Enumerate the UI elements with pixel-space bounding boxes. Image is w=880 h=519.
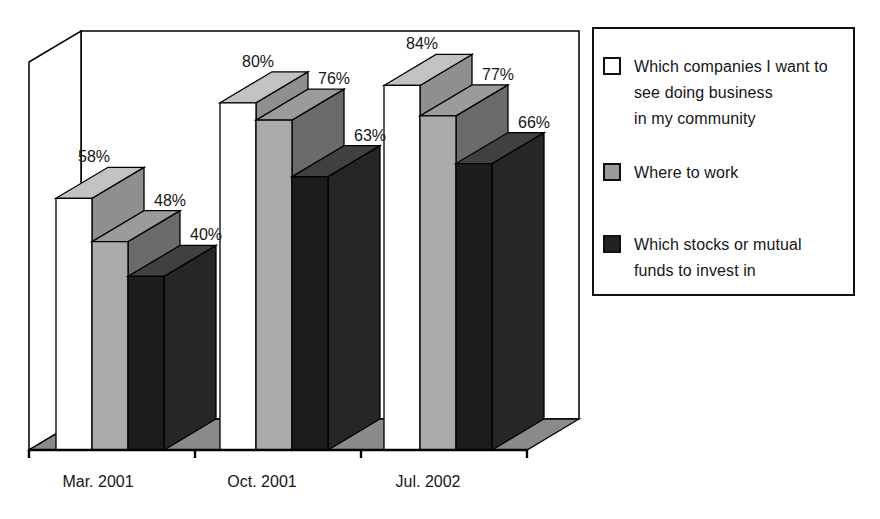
value-label: 48% — [154, 192, 186, 209]
bar-mar-2001-series-2-side — [164, 245, 216, 450]
legend-entry-stocks: Which stocks or mutual funds to invest i… — [594, 232, 849, 284]
value-label: 58% — [78, 148, 110, 165]
legend-entry-companies: Which companies I want to see doing busi… — [594, 54, 849, 132]
legend-entry-work: Where to work — [594, 160, 849, 186]
category-label: Jul. 2002 — [396, 473, 461, 490]
figure-canvas: 58%48%40%80%76%63%84%77%66%Mar. 2001Oct.… — [0, 0, 880, 519]
value-label: 76% — [318, 70, 350, 87]
value-label: 66% — [518, 114, 550, 131]
bar-oct-2001-series-2-front — [292, 177, 328, 450]
value-label: 40% — [190, 226, 222, 243]
bar-mar-2001-series-0-front — [56, 198, 92, 450]
bar-jul-2002-series-0-front — [384, 85, 420, 450]
value-label: 77% — [482, 66, 514, 83]
category-label: Mar. 2001 — [62, 473, 133, 490]
bar-oct-2001-series-0-front — [220, 103, 256, 450]
bar-mar-2001-series-1-front — [92, 242, 128, 450]
value-label: 63% — [354, 127, 386, 144]
legend-swatch-white-icon — [603, 57, 621, 75]
category-label: Oct. 2001 — [227, 473, 296, 490]
legend-swatch-gray-icon — [603, 163, 621, 181]
bar-oct-2001-series-1-front — [256, 120, 292, 450]
bar-oct-2001-series-2-side — [328, 146, 380, 450]
chart-legend: Which companies I want to see doing busi… — [592, 27, 855, 296]
bar-jul-2002-series-2-side — [492, 133, 544, 450]
bar-jul-2002-series-2-front — [456, 164, 492, 450]
legend-label: Which companies I want to see doing busi… — [634, 54, 828, 132]
value-label: 84% — [406, 35, 438, 52]
legend-label: Where to work — [634, 160, 738, 186]
bar-jul-2002-series-1-front — [420, 116, 456, 450]
bar-mar-2001-series-2-front — [128, 276, 164, 450]
value-label: 80% — [242, 53, 274, 70]
legend-label: Which stocks or mutual funds to invest i… — [634, 232, 802, 284]
legend-swatch-black-icon — [603, 235, 621, 253]
